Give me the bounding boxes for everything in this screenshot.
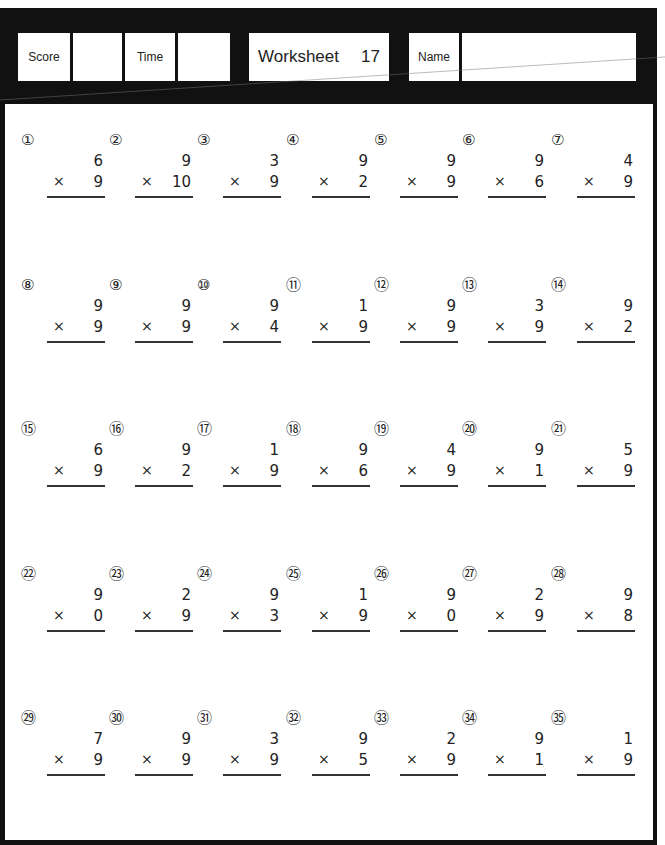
operator-row: ×0 bbox=[401, 607, 456, 625]
answer-line[interactable] bbox=[400, 341, 458, 343]
bottom-operand: 2 bbox=[623, 318, 633, 336]
problem-16: ⑯9×2 bbox=[109, 422, 199, 512]
operator-row: ×9 bbox=[489, 607, 544, 625]
answer-line[interactable] bbox=[312, 196, 370, 198]
answer-line[interactable] bbox=[577, 485, 635, 487]
answer-line[interactable] bbox=[47, 196, 105, 198]
answer-line[interactable] bbox=[577, 630, 635, 632]
top-operand: 1 bbox=[358, 297, 368, 315]
bottom-operand: 9 bbox=[269, 462, 279, 480]
answer-line[interactable] bbox=[400, 196, 458, 198]
bottom-operand: 6 bbox=[358, 462, 368, 480]
operator-row: ×9 bbox=[224, 462, 279, 480]
multiply-sign-icon: × bbox=[48, 173, 65, 191]
problem-18: ⑱9×6 bbox=[286, 422, 376, 512]
bottom-operand: 9 bbox=[93, 462, 103, 480]
operator-row: ×9 bbox=[313, 318, 368, 336]
operator-row: ×8 bbox=[578, 607, 633, 625]
time-field[interactable] bbox=[178, 33, 230, 81]
problem-number: ⑧ bbox=[21, 278, 34, 293]
problem-number: ㉟ bbox=[551, 711, 566, 726]
multiply-sign-icon: × bbox=[224, 173, 241, 191]
problem-10: ⑩9×4 bbox=[197, 278, 287, 368]
multiply-sign-icon: × bbox=[136, 173, 153, 191]
problem-20: ⑳9×1 bbox=[462, 422, 552, 512]
multiply-sign-icon: × bbox=[224, 751, 241, 769]
answer-line[interactable] bbox=[135, 196, 193, 198]
top-operand: 4 bbox=[446, 441, 456, 459]
answer-line[interactable] bbox=[47, 630, 105, 632]
answer-line[interactable] bbox=[577, 341, 635, 343]
answer-line[interactable] bbox=[223, 341, 281, 343]
multiply-sign-icon: × bbox=[313, 318, 330, 336]
time-label: Time bbox=[125, 33, 175, 81]
answer-line[interactable] bbox=[223, 774, 281, 776]
answer-line[interactable] bbox=[400, 630, 458, 632]
operator-row: ×9 bbox=[136, 318, 191, 336]
problem-24: ㉔9×3 bbox=[197, 567, 287, 657]
answer-line[interactable] bbox=[312, 630, 370, 632]
answer-line[interactable] bbox=[47, 341, 105, 343]
score-field[interactable] bbox=[73, 33, 122, 81]
problem-number: ⑯ bbox=[109, 422, 124, 437]
top-operand: 2 bbox=[181, 586, 191, 604]
answer-line[interactable] bbox=[488, 196, 546, 198]
answer-line[interactable] bbox=[488, 630, 546, 632]
problem-13: ⑬3×9 bbox=[462, 278, 552, 368]
problem-5: ⑤9×9 bbox=[374, 133, 464, 223]
problem-7: ⑦4×9 bbox=[551, 133, 641, 223]
problem-number: ⑥ bbox=[462, 133, 475, 148]
bottom-operand: 9 bbox=[269, 173, 279, 191]
problem-33: ㉝2×9 bbox=[374, 711, 464, 801]
name-field[interactable] bbox=[462, 33, 636, 81]
top-operand: 3 bbox=[269, 152, 279, 170]
operator-row: ×5 bbox=[313, 751, 368, 769]
multiply-sign-icon: × bbox=[401, 173, 418, 191]
bottom-operand: 9 bbox=[446, 462, 456, 480]
top-operand: 1 bbox=[269, 441, 279, 459]
answer-line[interactable] bbox=[577, 196, 635, 198]
top-operand: 9 bbox=[446, 297, 456, 315]
worksheet-number: 17 bbox=[361, 47, 380, 67]
answer-line[interactable] bbox=[223, 485, 281, 487]
answer-line[interactable] bbox=[488, 485, 546, 487]
operator-row: ×6 bbox=[489, 173, 544, 191]
problem-number: ⑤ bbox=[374, 133, 387, 148]
top-operand: 9 bbox=[269, 586, 279, 604]
answer-line[interactable] bbox=[312, 485, 370, 487]
answer-line[interactable] bbox=[400, 485, 458, 487]
problem-number: ⑬ bbox=[462, 278, 477, 293]
answer-line[interactable] bbox=[223, 196, 281, 198]
operator-row: ×9 bbox=[489, 318, 544, 336]
bottom-operand: 9 bbox=[623, 462, 633, 480]
operator-row: ×9 bbox=[48, 462, 103, 480]
operator-row: ×3 bbox=[224, 607, 279, 625]
top-operand: 3 bbox=[534, 297, 544, 315]
answer-line[interactable] bbox=[312, 341, 370, 343]
multiply-sign-icon: × bbox=[136, 751, 153, 769]
answer-line[interactable] bbox=[400, 774, 458, 776]
multiply-sign-icon: × bbox=[489, 318, 506, 336]
answer-line[interactable] bbox=[577, 774, 635, 776]
answer-line[interactable] bbox=[488, 341, 546, 343]
top-operand: 3 bbox=[269, 730, 279, 748]
bottom-operand: 0 bbox=[93, 607, 103, 625]
answer-line[interactable] bbox=[135, 341, 193, 343]
answer-line[interactable] bbox=[223, 630, 281, 632]
answer-line[interactable] bbox=[312, 774, 370, 776]
top-operand: 4 bbox=[623, 152, 633, 170]
problem-8: ⑧9×9 bbox=[21, 278, 111, 368]
answer-line[interactable] bbox=[135, 485, 193, 487]
problem-15: ⑮6×9 bbox=[21, 422, 111, 512]
answer-line[interactable] bbox=[135, 630, 193, 632]
problem-12: ⑫9×9 bbox=[374, 278, 464, 368]
problem-17: ⑰1×9 bbox=[197, 422, 287, 512]
answer-line[interactable] bbox=[488, 774, 546, 776]
top-operand: 9 bbox=[93, 586, 103, 604]
problem-number: ㉝ bbox=[374, 711, 389, 726]
answer-line[interactable] bbox=[47, 774, 105, 776]
problem-number: ㉔ bbox=[197, 567, 212, 582]
answer-line[interactable] bbox=[135, 774, 193, 776]
top-operand: 2 bbox=[534, 586, 544, 604]
answer-line[interactable] bbox=[47, 485, 105, 487]
